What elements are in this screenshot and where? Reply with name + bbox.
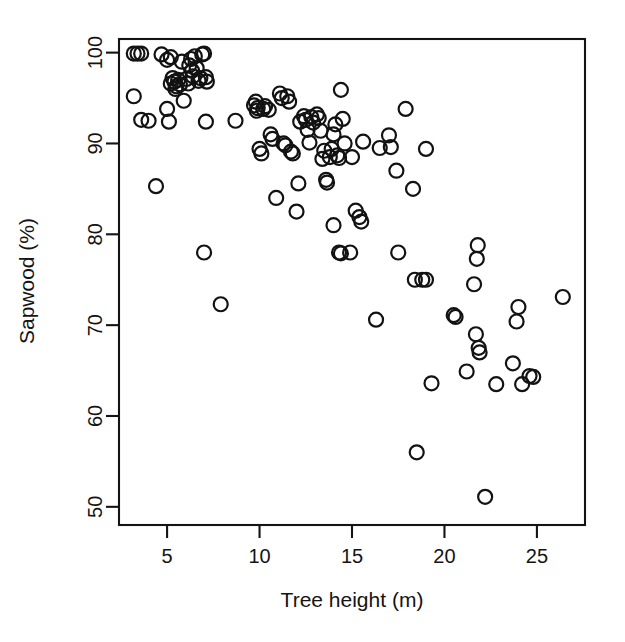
y-tick-label: 50 (84, 496, 106, 518)
x-tick-label: 20 (433, 545, 455, 567)
y-tick-label: 100 (84, 36, 106, 69)
y-tick-label: 60 (84, 405, 106, 427)
y-tick-label: 80 (84, 223, 106, 245)
y-axis-title: Sapwood (%) (15, 218, 38, 344)
x-tick-label: 5 (162, 545, 173, 567)
plot-canvas: 510152025 5060708090100 Tree height (m) … (0, 0, 625, 642)
y-tick-label: 90 (84, 132, 106, 154)
x-tick-label: 10 (248, 545, 270, 567)
x-tick-label: 25 (526, 545, 548, 567)
scatter-plot-figure: 510152025 5060708090100 Tree height (m) … (0, 0, 625, 642)
x-tick-label: 15 (341, 545, 363, 567)
y-tick-label: 70 (84, 314, 106, 336)
x-axis-title: Tree height (m) (281, 588, 424, 611)
